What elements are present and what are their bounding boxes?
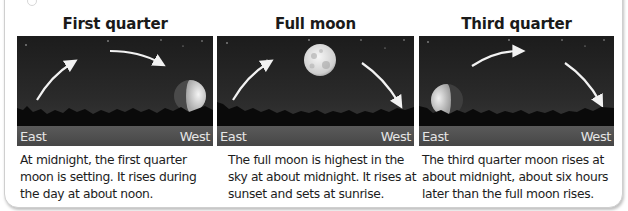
panel-title: Full moon [217, 15, 414, 33]
west-label: West [381, 129, 411, 144]
tree-silhouette [217, 102, 414, 128]
moon-full-icon [304, 44, 336, 76]
sky-illustration-first-quarter: East West [17, 36, 213, 146]
tree-silhouette [17, 106, 213, 128]
arrow-rising-icon [472, 51, 519, 66]
arrow-setting-icon [110, 51, 160, 63]
sky-illustration-full-moon: East West [217, 36, 414, 146]
sky-illustration-third-quarter: East West [419, 36, 614, 146]
horizon-bar: East West [419, 126, 614, 146]
panel-title: Third quarter [419, 15, 614, 33]
panel-caption: The third quarter moon rises at about mi… [422, 152, 617, 203]
panel-caption: At midnight, the first quarter moon is s… [20, 152, 216, 203]
horizon-bar: East West [17, 126, 213, 146]
east-label: East [220, 129, 246, 144]
west-label: West [581, 129, 611, 144]
east-label: East [20, 129, 46, 144]
panel-caption: The full moon is highest in the sky at a… [228, 152, 418, 203]
arrow-rising-icon [233, 63, 268, 100]
stars [427, 39, 605, 46]
arrow-setting-icon [565, 63, 600, 102]
east-label: East [422, 129, 448, 144]
arrow-rising-icon [37, 63, 72, 100]
arrow-setting-icon [362, 63, 399, 103]
moon-first-quarter-icon [174, 80, 206, 112]
panel-title: First quarter [17, 15, 213, 33]
west-label: West [180, 129, 210, 144]
horizon-bar: East West [217, 126, 414, 146]
